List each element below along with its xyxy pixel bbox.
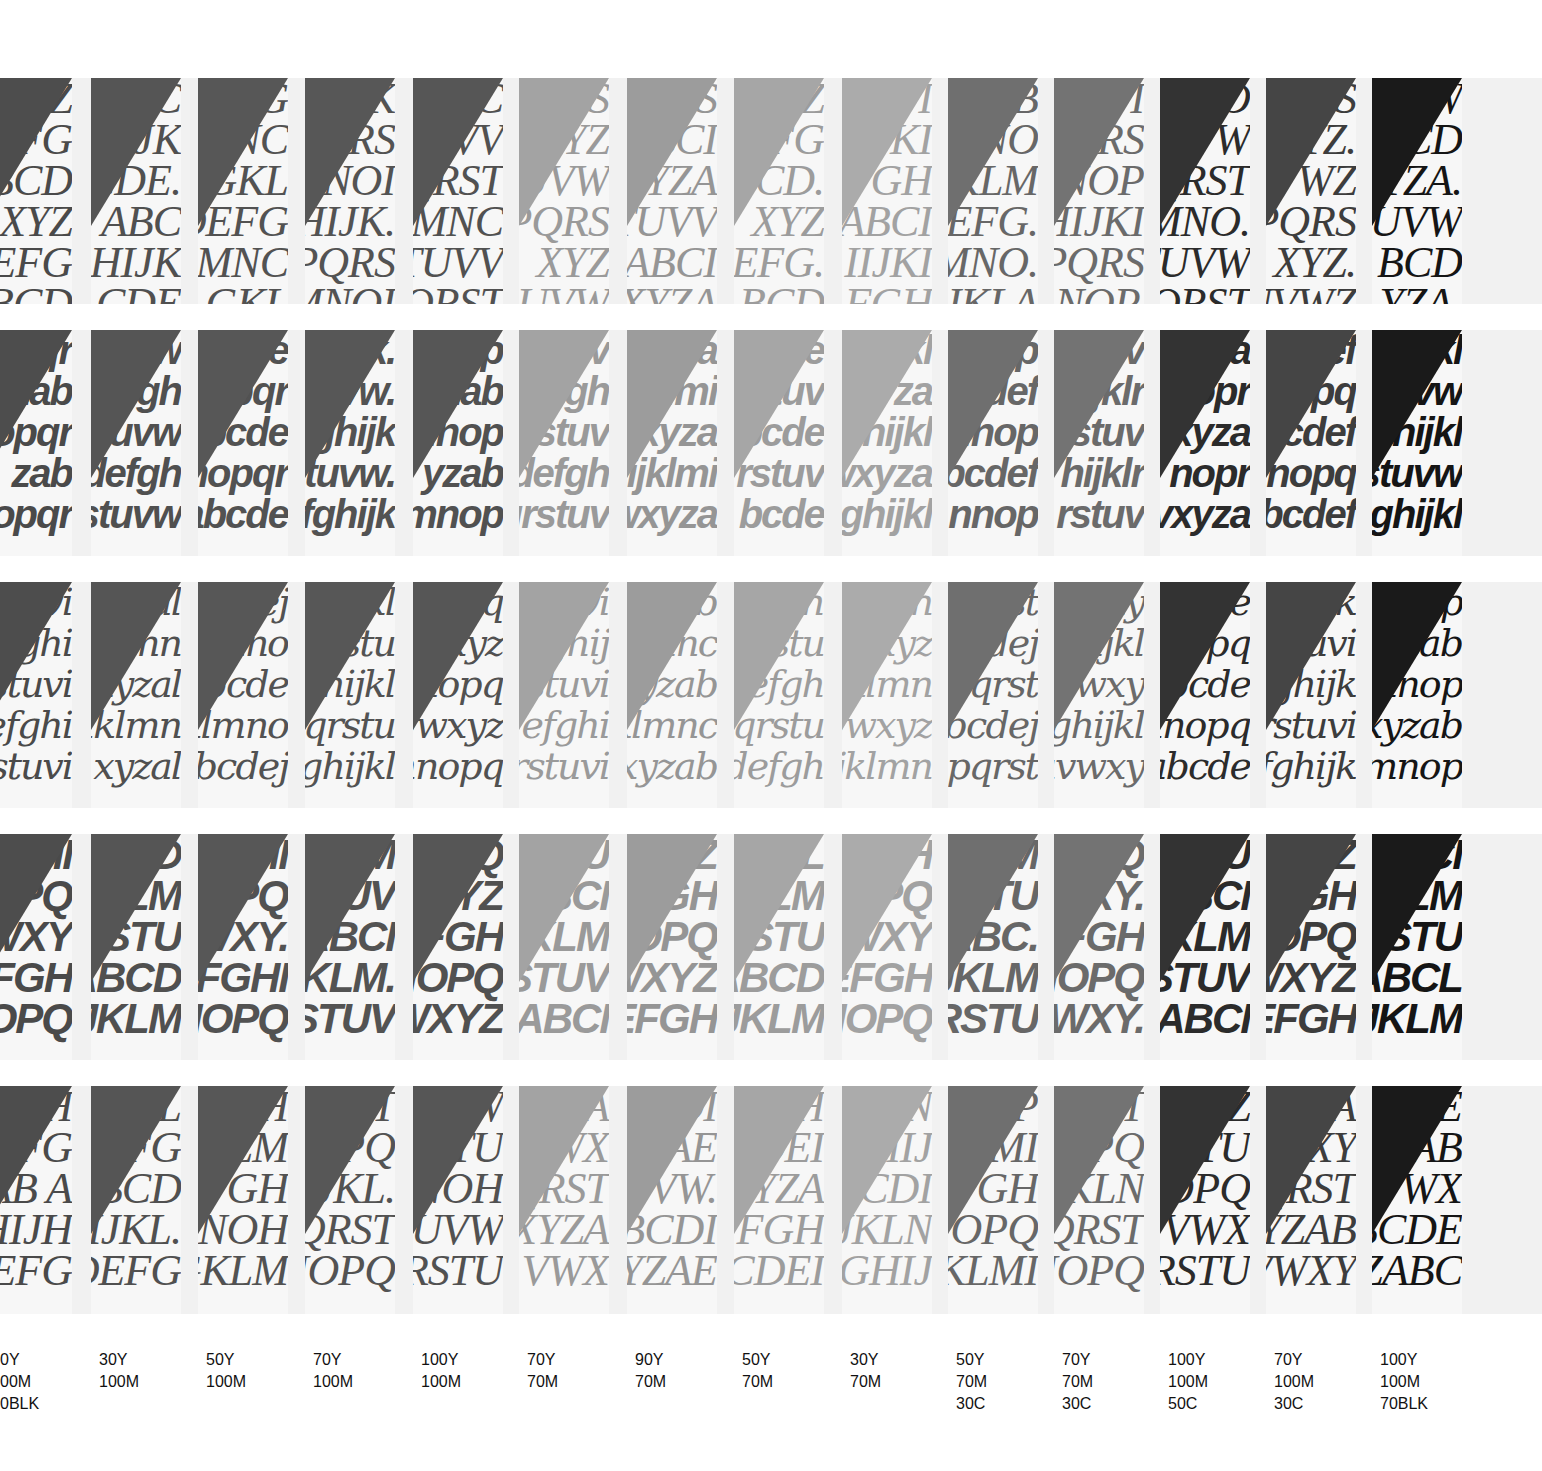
specimen-line: efghi	[0, 705, 72, 746]
cmyk-label-line: 100M	[206, 1371, 246, 1393]
specimen-line: HIJK.	[305, 201, 395, 242]
specimen-line: XYZ	[734, 201, 824, 242]
swatch-cell: uvefghqrstuvdefghqrstuv	[519, 330, 609, 556]
specimen-line: EFGH	[627, 998, 717, 1039]
swatch-cell: DIYZAEUVW.BCDIYZAE	[627, 1086, 717, 1314]
specimen-line: fghijk	[305, 494, 395, 535]
swatch-cell: JHEFGAB AHIJHEFG	[0, 1086, 72, 1314]
specimen-line: wxyza	[627, 494, 717, 535]
specimen-line: ABCD	[91, 957, 181, 998]
swatch-cell: stbcdejopqrstabcdejopqrst	[948, 582, 1038, 808]
specimen-line: pqrstu	[305, 705, 395, 746]
specimen-line: nnopq	[413, 746, 503, 787]
specimen-line: XYZ	[0, 201, 72, 242]
specimen-line: RSTUV	[305, 998, 395, 1039]
specimen-line: TUVV	[413, 242, 503, 283]
swatch-cell: efopqbcdefnopqbcdef	[1266, 330, 1356, 556]
cmyk-label-line: 30C	[1062, 1393, 1093, 1415]
swatch-cell: OVWQRSTMNO.TUVWQRST	[1160, 78, 1250, 304]
cmyk-label: 70Y100M	[313, 1349, 353, 1393]
specimen-line: fghijk	[1266, 746, 1356, 787]
specimen-line: XYZ	[519, 242, 609, 283]
swatch-cell: qrzabopqrzabopqr	[0, 330, 72, 556]
specimen-line: RSTUV	[1160, 957, 1250, 998]
specimen-line: QRST	[305, 1209, 395, 1250]
swatch-cell: estuvbcderstuvbcde	[734, 330, 824, 556]
specimen-line: NOPQ	[413, 957, 503, 998]
swatch-cell: MSTUVABCIJKLM.RSTUV	[305, 834, 395, 1060]
specimen-line: jklmn	[842, 746, 932, 787]
specimen-line: EFGHI	[198, 957, 288, 998]
cmyk-label: 70Y70M30C	[1062, 1349, 1093, 1415]
cmyk-label-line: 70BLK	[1380, 1393, 1428, 1415]
specimen-line: nopqr	[198, 453, 288, 494]
specimen-line: YZA.	[1372, 283, 1462, 304]
cmyk-label: 50Y70M	[742, 1349, 773, 1393]
specimen-line: ABCI	[519, 998, 609, 1039]
specimen-line: ABCL	[1372, 957, 1462, 998]
swatch-cell: vijklrrstuvhijklrrstuv	[1054, 330, 1144, 556]
swatch-cell: PKLMIFGHNOPQKLMI	[948, 1086, 1038, 1314]
swatch-cell: DEZABUVWXBCDEZABC	[1372, 1086, 1462, 1314]
specimen-line: JKLM.	[305, 957, 395, 998]
cmyk-label: 50Y70M30C	[956, 1349, 987, 1415]
swatch-cell: ZEFGHNOPQWXYZEFGH	[627, 834, 717, 1060]
cmyk-label-line: 0Y	[0, 1349, 39, 1371]
specimen-line: NOPQ	[842, 998, 932, 1039]
specimen-line: GHIJ	[842, 1250, 932, 1291]
cmyk-label-line: 70M	[635, 1371, 666, 1393]
specimen-line: MNOI	[305, 283, 395, 304]
specimen-line: EFGH	[842, 957, 932, 998]
specimen-line: FGH	[842, 283, 932, 304]
specimen-line: nopr	[1160, 453, 1250, 494]
specimen-line: zabcde	[1160, 746, 1250, 787]
specimen-line: mnop	[1372, 746, 1462, 787]
specimen-line: ABCI	[842, 201, 932, 242]
specimen-line: ijklmi	[627, 453, 717, 494]
specimen-line: rstuv	[736, 453, 824, 494]
cmyk-label: 30Y70M	[850, 1349, 881, 1393]
specimen-line: rstuvi	[1266, 705, 1356, 746]
specimen-line: MNOH	[198, 1209, 288, 1250]
specimen-line: YZAB	[1266, 1209, 1356, 1250]
swatch-cell: HOPQVWXYEFGHNOPQ	[842, 834, 932, 1060]
cmyk-label-line: 70Y	[1274, 1349, 1314, 1371]
specimen-line: defgh	[734, 746, 824, 787]
specimen-line: VWXY	[1266, 1250, 1356, 1291]
specimen-line: defgh	[91, 453, 181, 494]
specimen-line: hijklr	[1056, 453, 1144, 494]
specimen-line: MNC	[198, 242, 288, 283]
specimen-line: nnop	[948, 494, 1038, 535]
cmyk-label: 70Y100M30C	[1274, 1349, 1314, 1415]
swatch-cell: ZEFGBCDXYZEFGBCD	[0, 78, 72, 304]
cmyk-label-line: 100Y	[421, 1349, 461, 1371]
swatch-cell: DKLMRSTUABCDJKLM	[91, 834, 181, 1060]
specimen-line: TUVV	[627, 201, 717, 242]
specimen-line: DEFG	[91, 1250, 181, 1291]
specimen-line: PQRS	[305, 242, 395, 283]
specimen-line: YZAE	[627, 1250, 717, 1291]
specimen-line: BCD	[734, 283, 824, 304]
specimen-line: JKLA	[948, 283, 1038, 304]
swatch-cell: IJKIFGHABCIIIJKIFGH	[842, 78, 932, 304]
specimen-line: PQRS	[519, 201, 609, 242]
swatch-cell: UABCIIJKLMRSTUVABCI	[519, 834, 609, 1060]
cmyk-label-line: 90Y	[635, 1349, 666, 1371]
specimen-line: opqr	[0, 494, 72, 535]
swatch-cell: OHKLMEFGHMNOHGKLM	[198, 1086, 288, 1314]
specimen-line: WXYZ	[1266, 957, 1356, 998]
cmyk-label: 70Y70M	[527, 1349, 558, 1393]
swatch-cell: viefghistuviefghistuvi	[0, 582, 72, 808]
specimen-line: PQRS	[1054, 242, 1144, 283]
cmyk-label-line: 100M	[421, 1371, 461, 1393]
specimen-line: NOPQ	[948, 1209, 1038, 1250]
specimen-line: BCDI	[627, 1209, 717, 1250]
specimen-line: TUVW	[1160, 242, 1250, 283]
specimen-line: XYZ.	[1266, 242, 1356, 283]
specimen-line: EFG.	[948, 201, 1038, 242]
cmyk-label: 100Y100M70BLK	[1380, 1349, 1428, 1415]
specimen-line: ghijkl	[1054, 705, 1144, 746]
specimen-line: iklmn	[91, 705, 181, 746]
specimen-line: bcde	[736, 494, 824, 535]
cmyk-label-line: 70M	[527, 1371, 558, 1393]
